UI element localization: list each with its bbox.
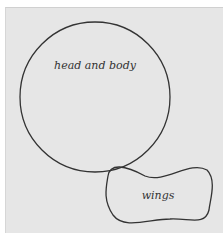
head-body-label: head and body <box>54 59 137 72</box>
wings-label: wings <box>142 189 175 202</box>
head-body-circle <box>20 22 170 172</box>
diagram-svg: head and body wings <box>0 0 223 239</box>
